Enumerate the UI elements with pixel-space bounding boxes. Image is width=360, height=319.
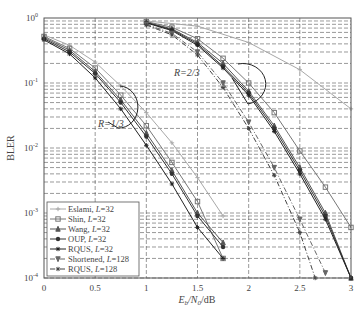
annotation-r23-label: R=2/3: [173, 67, 200, 78]
bler-chart: 00.511.522.53 10010-110-210-310-4 Eb/N0/…: [0, 0, 360, 319]
x-tick-label: 0.5: [90, 283, 102, 293]
legend-label: Shortened, L=128: [68, 254, 129, 264]
x-axis-ticks: 00.511.522.53: [42, 283, 354, 293]
y-tick-label: 100: [26, 12, 38, 23]
legend-label: Eslami, L=32: [68, 204, 114, 214]
y-axis-ticks: 10010-110-210-310-4: [24, 12, 38, 283]
x-tick-label: 3: [349, 283, 354, 293]
x-tick-label: 2.5: [294, 283, 306, 293]
legend-label: OUP, L=32: [68, 234, 106, 244]
annotation-r13: R=1/3: [97, 86, 138, 129]
legend-label: RQUS, L=128: [68, 264, 117, 274]
y-tick-label: 10-1: [24, 77, 38, 88]
y-tick-label: 10-4: [24, 272, 38, 283]
x-tick-label: 1.5: [192, 283, 204, 293]
x-tick-label: 1: [144, 283, 149, 293]
x-tick-label: 0: [42, 283, 47, 293]
annotation-r13-label: R=1/3: [97, 118, 124, 129]
x-axis-label: Eb/N0/dB: [177, 294, 215, 307]
legend: Eslami, L=32Shin, L=32Wang, L=32OUP, L=3…: [47, 202, 139, 276]
legend-label: Shin, L=32: [68, 214, 106, 224]
y-tick-label: 10-2: [24, 142, 38, 153]
x-tick-label: 2: [246, 283, 251, 293]
y-tick-label: 10-3: [24, 207, 38, 218]
series-6: [144, 23, 317, 280]
legend-label: Wang, L=32: [68, 224, 110, 234]
legend-label: RQUS, L=32: [68, 244, 113, 254]
y-axis-label: BLER: [5, 135, 16, 161]
